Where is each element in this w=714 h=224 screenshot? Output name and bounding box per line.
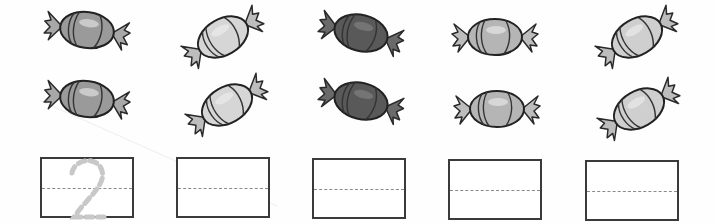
candy-icon: [316, 76, 406, 126]
candy-icon: [42, 5, 132, 55]
dashed-midline: [314, 189, 404, 190]
trace-digit-two: [64, 153, 114, 223]
candy-icon: [178, 12, 268, 62]
dashed-midline: [587, 191, 677, 192]
candy-icon: [450, 12, 540, 62]
number-writing-box[interactable]: [176, 157, 270, 218]
candy-icon: [594, 84, 684, 134]
candy-icon: [452, 84, 542, 134]
candy-icon: [316, 8, 406, 58]
dashed-midline: [450, 190, 540, 191]
number-writing-box[interactable]: [40, 157, 134, 218]
number-writing-box[interactable]: [312, 158, 406, 219]
dashed-midline: [178, 188, 268, 189]
candy-icon: [42, 74, 132, 124]
number-writing-box[interactable]: [448, 159, 542, 220]
candy-icon: [182, 80, 272, 130]
candy-icon: [592, 12, 682, 62]
counting-worksheet: [0, 0, 714, 224]
number-writing-box[interactable]: [585, 160, 679, 221]
